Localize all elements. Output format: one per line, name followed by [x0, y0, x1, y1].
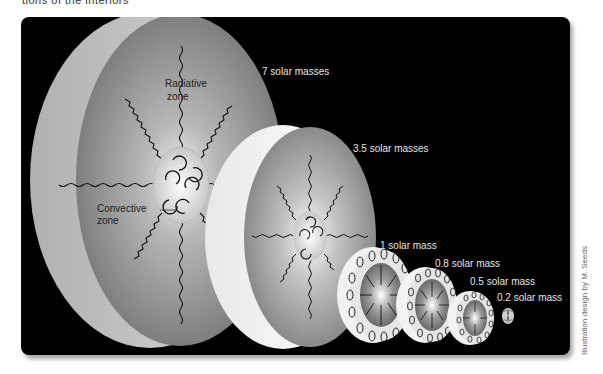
label-7-solar-masses: 7 solar masses	[262, 66, 329, 77]
label-3-5-solar-masses: 3.5 solar masses	[353, 143, 429, 154]
label-0-2-solar-mass: 0.2 solar mass	[497, 292, 562, 303]
label-0-5-solar-mass: 0.5 solar mass	[470, 276, 535, 287]
label-0-8-solar-mass: 0.8 solar mass	[435, 258, 500, 269]
label-1-solar-mass: 1 solar mass	[380, 240, 437, 251]
radiative-zone-label-line2: zone	[167, 91, 189, 102]
star-0-8-solar-mass	[396, 267, 458, 343]
illustration-credit: Illustration design by M. Seeds	[580, 246, 589, 355]
star-0-2-solar-mass	[502, 308, 514, 324]
stellar-interiors-figure: Radiative zone Convective zone 7 solar m…	[21, 17, 570, 355]
star-0-5-solar-mass	[447, 291, 494, 345]
convective-zone-label-line2: zone	[97, 215, 119, 226]
convective-core	[153, 147, 209, 223]
figure-svg: Radiative zone Convective zone 7 solar m…	[21, 17, 570, 355]
convective-zone-label: Convective	[97, 203, 147, 214]
radiative-zone-label: Radiative	[165, 78, 207, 89]
caption-fragment: tions of the interiors	[22, 0, 129, 6]
